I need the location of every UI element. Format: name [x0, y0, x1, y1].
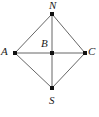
point-marker-C [83, 51, 87, 55]
point-marker-S [50, 86, 54, 90]
vertex-label-N: N [49, 0, 56, 11]
vertex-label-S: S [49, 95, 55, 106]
segment-C-S [52, 53, 85, 88]
point-marker-N [50, 12, 54, 16]
segment-N-C [52, 14, 85, 53]
vertex-label-B: B [41, 38, 48, 49]
geometry-figure: N A B C S [0, 0, 99, 117]
point-marker-B [50, 51, 54, 55]
vertex-label-A: A [1, 46, 8, 57]
segment-S-A [15, 53, 52, 88]
vertex-label-C: C [88, 46, 95, 57]
point-marker-A [13, 51, 17, 55]
